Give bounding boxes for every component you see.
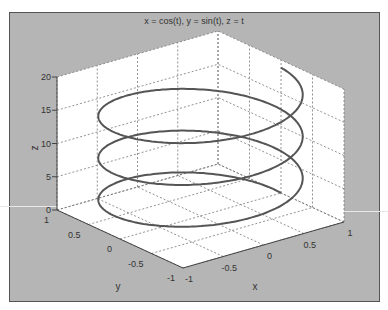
x-tick-label: -1 xyxy=(185,274,193,284)
y-tick-label: 0.5 xyxy=(68,230,81,240)
y-tick-label: -0.5 xyxy=(128,259,144,269)
z-tick-label: 20 xyxy=(41,72,51,82)
y-tick-label: 0 xyxy=(107,244,112,254)
z-axis-label: z xyxy=(29,146,40,151)
x-axis-label: x xyxy=(253,281,258,292)
axes-walls xyxy=(57,31,344,268)
z-tick-label: 5 xyxy=(46,172,51,182)
x-tick-label: 0.5 xyxy=(303,240,316,250)
y-axis-label: y xyxy=(116,281,121,292)
x-tick-label: 1 xyxy=(347,228,352,238)
y-tick-label: -1 xyxy=(167,273,175,283)
y-tick-label: 1 xyxy=(44,215,49,225)
z-tick-label: 0 xyxy=(46,205,51,215)
z-tick-label: 10 xyxy=(41,139,51,149)
helix-3d-plot: 05101520-1-0.500.51-1-0.500.51 zyx xyxy=(0,0,388,310)
x-tick-label: -0.5 xyxy=(221,263,237,273)
z-tick-label: 15 xyxy=(41,105,51,115)
x-tick-label: 0 xyxy=(267,251,272,261)
